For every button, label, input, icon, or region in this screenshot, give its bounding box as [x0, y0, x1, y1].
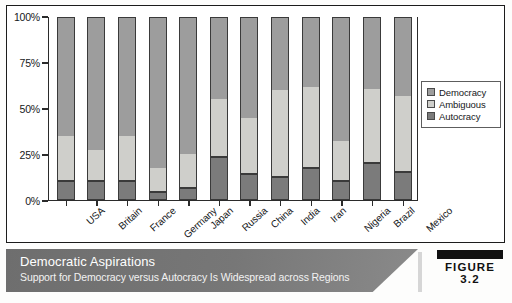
legend-label-ambiguous: Ambiguous: [439, 99, 486, 110]
legend-label-democracy: Democracy: [439, 87, 486, 98]
segment-ambiguous: [395, 96, 411, 172]
segment-democracy: [364, 18, 380, 89]
x-label-usa: USA: [84, 205, 106, 227]
segment-ambiguous: [88, 150, 104, 181]
segment-autocracy: [333, 181, 349, 199]
figure-title: Democratic Aspirations: [20, 254, 155, 269]
y-tick-25: 25%: [0, 149, 48, 161]
segment-autocracy: [303, 168, 319, 199]
segment-democracy: [211, 18, 227, 99]
x-label-mexico: Mexico: [424, 205, 454, 234]
x-label-india: India: [299, 205, 322, 227]
banner-shadow: [418, 252, 422, 292]
segment-ambiguous: [180, 154, 196, 188]
bar-india: [271, 17, 289, 200]
segment-democracy: [58, 18, 74, 136]
legend-swatch-democracy: [427, 88, 435, 96]
x-label-russia: Russia: [240, 205, 270, 233]
bar-japan: [179, 17, 197, 200]
figure-page: 100% 75% 50% 25% 0% USABritainFranceGerm…: [0, 0, 512, 303]
segment-democracy: [150, 18, 166, 168]
segment-ambiguous: [303, 87, 319, 168]
figure-subtitle: Support for Democracy versus Autocracy I…: [20, 271, 349, 283]
segment-democracy: [119, 18, 135, 136]
segment-autocracy: [364, 163, 380, 199]
segment-democracy: [88, 18, 104, 150]
y-tick-50: 50%: [0, 103, 48, 115]
x-label-nigeria: Nigeria: [362, 205, 392, 234]
segment-autocracy: [119, 181, 135, 199]
segment-autocracy: [395, 172, 411, 199]
segment-autocracy: [272, 177, 288, 199]
x-label-brazil: Brazil: [391, 205, 416, 230]
bar-brazil: [363, 17, 381, 200]
segment-ambiguous: [364, 89, 380, 163]
segment-ambiguous: [119, 136, 135, 181]
plot-area: [48, 17, 418, 201]
x-label-china: China: [269, 205, 295, 230]
segment-democracy: [303, 18, 319, 87]
bar-britain: [87, 17, 105, 200]
legend-label-autocracy: Autocracy: [439, 111, 480, 122]
segment-autocracy: [180, 188, 196, 199]
segment-democracy: [333, 18, 349, 141]
bar-nigeria: [332, 17, 350, 200]
segment-democracy: [241, 18, 257, 118]
segment-democracy: [180, 18, 196, 154]
segment-ambiguous: [58, 136, 74, 181]
segment-democracy: [395, 18, 411, 96]
y-tick-100: 100%: [0, 11, 48, 23]
plot-right-border: [417, 17, 418, 201]
caption-banner: Democratic Aspirations Support for Democ…: [6, 249, 418, 292]
bar-mexico: [394, 17, 412, 200]
segment-autocracy: [150, 192, 166, 199]
segment-autocracy: [241, 174, 257, 199]
x-label-france: France: [148, 205, 178, 234]
segment-ambiguous: [150, 168, 166, 192]
x-axis-labels: USABritainFranceGermanyJapanRussiaChinaI…: [48, 205, 428, 245]
bar-china: [240, 17, 258, 200]
bar-russia: [210, 17, 228, 200]
segment-autocracy: [88, 181, 104, 199]
bar-usa: [57, 17, 75, 200]
segment-democracy: [272, 18, 288, 90]
chart-legend: Democracy Ambiguous Autocracy: [421, 81, 501, 128]
y-tick-75: 75%: [0, 57, 48, 69]
figure-tag-label: FIGURE 3.2: [434, 261, 506, 285]
bar-group: [50, 17, 418, 200]
x-label-britain: Britain: [116, 205, 144, 232]
segment-autocracy: [58, 181, 74, 199]
bar-germany: [149, 17, 167, 200]
legend-item-autocracy: Autocracy: [427, 111, 496, 123]
legend-swatch-autocracy: [427, 112, 435, 120]
stacked-bar-chart: 100% 75% 50% 25% 0% USABritainFranceGerm…: [0, 0, 512, 245]
bar-iran: [302, 17, 320, 200]
x-label-iran: Iran: [328, 205, 348, 224]
legend-item-ambiguous: Ambiguous: [427, 99, 496, 111]
segment-ambiguous: [272, 90, 288, 177]
segment-ambiguous: [333, 141, 349, 181]
y-tick-0: 0%: [0, 195, 48, 207]
bar-france: [118, 17, 136, 200]
legend-swatch-ambiguous: [427, 100, 435, 108]
segment-ambiguous: [211, 99, 227, 157]
segment-ambiguous: [241, 118, 257, 174]
legend-item-democracy: Democracy: [427, 87, 496, 99]
figure-tag-rule: [437, 250, 503, 259]
segment-autocracy: [211, 157, 227, 199]
